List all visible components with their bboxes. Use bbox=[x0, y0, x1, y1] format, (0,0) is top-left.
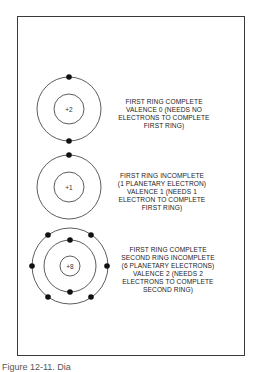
description-line: VALENCE 2 (NEEDS 2 bbox=[116, 270, 220, 278]
atom-2-description: FIRST RING INCOMPLETE (1 PLANETARY ELECT… bbox=[110, 172, 214, 212]
atom-1-description: FIRST RING COMPLETE VALENCE 0 (NEEDS NO … bbox=[112, 98, 216, 130]
electron bbox=[66, 152, 72, 158]
nucleus-label: +2 bbox=[65, 106, 73, 113]
description-line: FIRST RING) bbox=[112, 122, 216, 130]
nucleus-label: +8 bbox=[66, 263, 74, 270]
description-line: FIRST RING COMPLETE bbox=[112, 98, 216, 106]
electron-outer bbox=[104, 263, 110, 269]
atom-hydrogen: +1 bbox=[37, 152, 101, 219]
description-line: SECOND RING) bbox=[116, 286, 220, 294]
description-line: FIRST RING COMPLETE bbox=[116, 246, 220, 254]
atom-oxygen: +8 bbox=[29, 228, 110, 304]
nucleus-label: +1 bbox=[65, 184, 73, 191]
description-line: (1 PLANETARY ELECTRON) bbox=[110, 180, 214, 188]
description-line: ELECTRONS TO COMPLETE bbox=[116, 278, 220, 286]
description-line: FIRST RING) bbox=[110, 204, 214, 212]
figure-caption: Figure 12-11. Dia bbox=[2, 362, 71, 372]
electron-inner bbox=[67, 289, 73, 295]
description-line: ELECTRON TO COMPLETE bbox=[110, 196, 214, 204]
electron bbox=[66, 138, 72, 144]
electron bbox=[66, 74, 72, 80]
electron-outer bbox=[88, 294, 94, 300]
description-line: (6 PLANETARY ELECTRONS) bbox=[116, 262, 220, 270]
electron-outer bbox=[45, 232, 51, 238]
description-line: SECOND RING INCOMPLETE bbox=[116, 254, 220, 262]
description-line: ELECTRONS TO COMPLETE bbox=[112, 114, 216, 122]
atom-helium: +2 bbox=[37, 74, 101, 144]
description-line: VALENCE 0 (NEEDS NO bbox=[112, 106, 216, 114]
description-line: FIRST RING INCOMPLETE bbox=[110, 172, 214, 180]
electron-inner bbox=[67, 237, 73, 243]
description-line: VALENCE 1 (NEEDS 1 bbox=[110, 188, 214, 196]
electron-outer bbox=[88, 232, 94, 238]
electron-outer bbox=[45, 294, 51, 300]
electron-outer bbox=[29, 263, 35, 269]
atom-3-description: FIRST RING COMPLETE SECOND RING INCOMPLE… bbox=[116, 246, 220, 294]
